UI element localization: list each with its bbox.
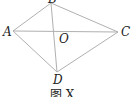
- segment-da: [13, 31, 57, 72]
- segment-bc: [51, 3, 118, 32]
- figure-caption: 图 X: [50, 89, 74, 97]
- quadrilateral-diagram: [0, 0, 135, 97]
- label-d: D: [53, 74, 63, 86]
- label-a: A: [3, 26, 12, 38]
- label-b: B: [48, 0, 57, 5]
- diagonal-bd: [51, 3, 57, 72]
- segment-ab: [13, 3, 51, 31]
- label-c: C: [121, 26, 130, 38]
- label-o: O: [59, 33, 69, 45]
